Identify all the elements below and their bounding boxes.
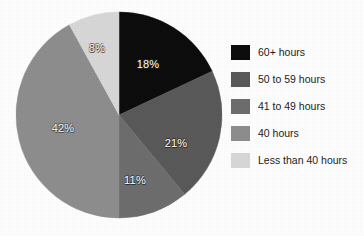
legend-item-label: 40 hours bbox=[258, 126, 299, 141]
legend-swatch-60-plus-hours bbox=[231, 45, 250, 60]
pie-chart-figure: 18%21%11%42%8% 60+ hours50 to 59 hours41… bbox=[0, 0, 364, 236]
legend-item: 40 hours bbox=[231, 125, 364, 142]
pie-chart-plot-area: 18%21%11%42%8% bbox=[0, 0, 228, 236]
legend-item-label: 41 to 49 hours bbox=[258, 99, 325, 114]
legend-swatch-50-to-59-hours bbox=[231, 72, 250, 87]
chart-legend: 60+ hours50 to 59 hours41 to 49 hours40 … bbox=[231, 44, 364, 169]
legend-item: 50 to 59 hours bbox=[231, 71, 364, 88]
legend-swatch-41-to-49-hours bbox=[231, 99, 250, 114]
legend-item-label: 50 to 59 hours bbox=[258, 72, 325, 87]
legend-item-label: 60+ hours bbox=[258, 45, 305, 60]
legend-swatch-less-than-40-hours bbox=[231, 153, 250, 168]
legend-item: 60+ hours bbox=[231, 44, 364, 61]
legend-item-label: Less than 40 hours bbox=[258, 153, 347, 168]
legend-swatch-40-hours bbox=[231, 126, 250, 141]
pie-chart-svg bbox=[0, 0, 228, 236]
legend-item: 41 to 49 hours bbox=[231, 98, 364, 115]
legend-item: Less than 40 hours bbox=[231, 152, 364, 169]
pie-slice-group bbox=[16, 12, 222, 218]
